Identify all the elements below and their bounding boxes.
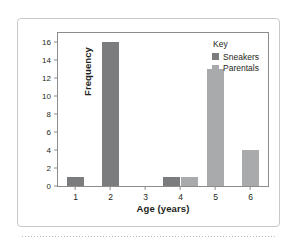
y-tick-6: 6 xyxy=(47,128,58,137)
y-tick-4: 4 xyxy=(47,146,58,155)
y-tick-label: 6 xyxy=(47,128,51,137)
x-tick-label: 5 xyxy=(213,192,218,202)
y-tick-label: 16 xyxy=(42,38,51,47)
x-tick-3: 3 xyxy=(143,186,148,202)
x-tick-1: 1 xyxy=(73,186,78,202)
x-tick-label: 3 xyxy=(143,192,148,202)
y-tick-label: 12 xyxy=(42,74,51,83)
bar-sneakers-age-2 xyxy=(102,42,119,186)
x-tick-2: 2 xyxy=(108,186,113,202)
y-tick-label: 4 xyxy=(47,146,51,155)
y-tick-12: 12 xyxy=(42,74,58,83)
legend-label: Sneakers xyxy=(223,52,259,63)
x-tick-mark xyxy=(75,186,76,190)
x-tick-5: 5 xyxy=(213,186,218,202)
legend-item-parentals: Parentals xyxy=(212,63,259,74)
y-tick-label: 10 xyxy=(42,92,51,101)
x-tick-mark xyxy=(145,186,146,190)
x-tick-label: 1 xyxy=(73,192,78,202)
legend-entries: SneakersParentals xyxy=(212,52,259,74)
x-tick-6: 6 xyxy=(248,186,253,202)
bar-parentals-age-6 xyxy=(242,150,259,186)
x-tick-label: 2 xyxy=(108,192,113,202)
legend-item-sneakers: Sneakers xyxy=(212,52,259,63)
y-tick-label: 0 xyxy=(47,182,51,191)
legend-label: Parentals xyxy=(223,63,259,74)
plot-area: Frequency 0246810121416 123456 Age (year… xyxy=(57,32,269,187)
x-tick-mark xyxy=(215,186,216,190)
y-tick-14: 14 xyxy=(42,56,58,65)
legend-title: Key xyxy=(212,39,259,50)
y-tick-label: 2 xyxy=(47,164,51,173)
y-tick-16: 16 xyxy=(42,38,58,47)
y-tick-10: 10 xyxy=(42,92,58,101)
y-tick-label: 8 xyxy=(47,110,51,119)
bar-sneakers-age-1 xyxy=(67,177,84,186)
x-tick-label: 6 xyxy=(248,192,253,202)
figure-card: Frequency 0246810121416 123456 Age (year… xyxy=(17,18,280,227)
chart-legend: Key SneakersParentals xyxy=(209,38,262,76)
legend-swatch-icon xyxy=(212,53,219,60)
dotted-divider xyxy=(22,236,276,237)
y-tick-label: 14 xyxy=(42,56,51,65)
x-tick-4: 4 xyxy=(178,186,183,202)
bar-sneakers-age-4 xyxy=(163,177,180,186)
x-axis-title: Age (years) xyxy=(58,203,268,214)
x-tick-mark xyxy=(180,186,181,190)
y-tick-0: 0 xyxy=(47,182,58,191)
x-tick-mark xyxy=(110,186,111,190)
y-tick-8: 8 xyxy=(47,110,58,119)
y-tick-2: 2 xyxy=(47,164,58,173)
legend-swatch-icon xyxy=(212,65,219,72)
bar-parentals-age-4 xyxy=(181,177,198,186)
x-tick-mark xyxy=(250,186,251,190)
x-tick-label: 4 xyxy=(178,192,183,202)
bar-parentals-age-5 xyxy=(207,69,224,186)
